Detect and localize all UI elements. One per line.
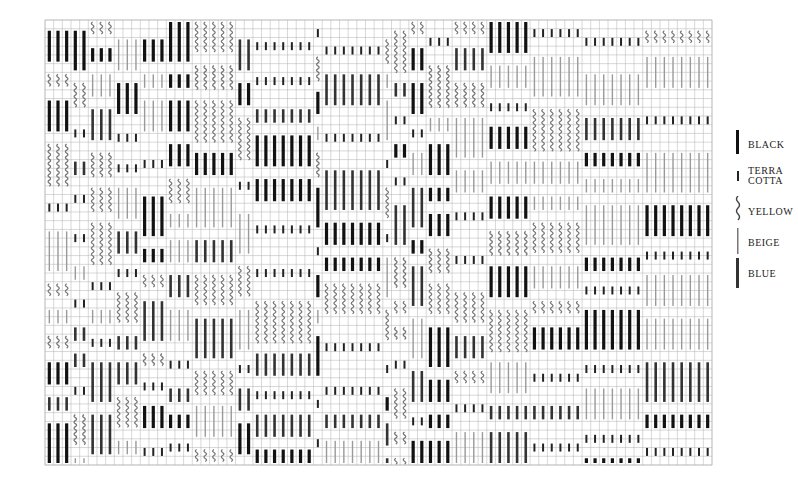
legend-item-blue: BLUE xyxy=(728,258,798,288)
blue-thread-icon xyxy=(734,258,742,288)
weaving-chart xyxy=(0,0,798,494)
beige-thread-icon xyxy=(734,228,742,254)
yellow-wavy-thread-icon xyxy=(734,196,742,222)
legend-item-beige: BEIGE xyxy=(728,228,798,258)
black-thread-icon xyxy=(734,130,742,154)
legend-item-yellow: YELLOW xyxy=(728,196,798,226)
legend-label: TERRA COTTA xyxy=(748,166,783,186)
legend-label: BLUE xyxy=(748,269,776,279)
terracotta-thread-icon xyxy=(734,162,742,186)
legend-label: BEIGE xyxy=(748,238,780,248)
legend-item-terracotta: TERRA COTTA xyxy=(728,162,798,192)
legend-label: BLACK xyxy=(748,140,784,150)
legend-item-black: BLACK xyxy=(728,130,798,160)
legend-label: YELLOW xyxy=(748,207,793,217)
